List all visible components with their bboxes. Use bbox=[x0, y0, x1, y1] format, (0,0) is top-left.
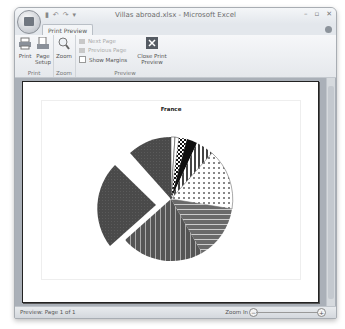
office-button[interactable] bbox=[17, 10, 41, 34]
pie-slices bbox=[97, 137, 232, 261]
maximize-button[interactable]: ▫ bbox=[314, 10, 319, 18]
next-page-icon bbox=[79, 39, 85, 44]
show-margins-checkbox[interactable]: Show Margins bbox=[79, 56, 127, 63]
magnifier-icon bbox=[57, 37, 71, 50]
next-page-button[interactable]: Next Page bbox=[79, 38, 116, 44]
ribbon-tabs: Print Preview bbox=[15, 24, 336, 35]
previous-page-button[interactable]: Previous Page bbox=[79, 47, 126, 53]
window-controls: – ▫ ✕ bbox=[304, 10, 332, 18]
minimize-button[interactable]: – bbox=[304, 10, 308, 18]
help-icon[interactable] bbox=[325, 26, 332, 33]
close-button[interactable]: ✕ bbox=[326, 10, 332, 18]
group-preview: Next Page Previous Page Show Margins Clo… bbox=[75, 35, 175, 77]
close-print-preview-button[interactable]: Close Print Preview bbox=[135, 37, 169, 65]
ribbon: Print Page Setup Print Zoom Zoom Next Pa… bbox=[15, 35, 336, 78]
printer-icon bbox=[18, 37, 32, 50]
preview-area: France bbox=[15, 78, 336, 307]
previous-page-icon bbox=[79, 48, 85, 53]
preview-page[interactable]: France bbox=[22, 81, 319, 303]
zoom-button[interactable]: Zoom bbox=[55, 37, 73, 59]
zoom-in-button[interactable]: + bbox=[317, 308, 326, 317]
group-print: Print Page Setup Print bbox=[15, 35, 54, 77]
zoom-in-label: Zoom In bbox=[225, 309, 248, 315]
title-bar: ▮ ↶ ↷ ▾ Villas abroad.xlsx - Microsoft E… bbox=[15, 8, 336, 24]
office-logo-icon bbox=[24, 17, 34, 26]
group-zoom: Zoom Zoom bbox=[53, 35, 76, 77]
close-preview-icon bbox=[145, 37, 159, 50]
chart-area: France bbox=[41, 100, 301, 280]
excel-window: ▮ ↶ ↷ ▾ Villas abroad.xlsx - Microsoft E… bbox=[14, 7, 337, 319]
window-title: Villas abroad.xlsx - Microsoft Excel bbox=[15, 11, 336, 19]
page-setup-button[interactable]: Page Setup bbox=[34, 37, 52, 65]
group-label-preview: Preview bbox=[75, 70, 175, 76]
group-label-print: Print bbox=[15, 70, 53, 76]
page-status: Preview: Page 1 of 1 bbox=[20, 309, 76, 315]
scrollbar-thumb[interactable] bbox=[328, 86, 334, 299]
status-bar: Preview: Page 1 of 1 Zoom In − + bbox=[15, 306, 336, 318]
pie-chart bbox=[42, 101, 300, 279]
page-setup-icon bbox=[36, 37, 50, 50]
vertical-scrollbar[interactable] bbox=[326, 78, 335, 307]
zoom-slider[interactable] bbox=[256, 312, 318, 313]
group-label-zoom: Zoom bbox=[53, 70, 75, 76]
checkbox-icon bbox=[79, 56, 86, 63]
print-button[interactable]: Print bbox=[17, 37, 33, 59]
